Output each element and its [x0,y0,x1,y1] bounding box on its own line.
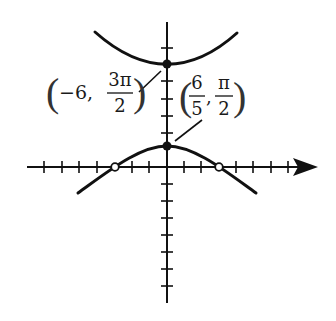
upper-point-label: ( −6, 3π 2 ) [46,69,146,116]
graph-figure: ( −6, 3π 2 ) ( 6 5 , π 2 ) [0,0,336,321]
label-x-coordinate: −6, [59,81,93,103]
lower-vertex-point [163,142,172,151]
close-paren: ) [133,70,146,115]
label-y-denominator: 2 [218,98,229,119]
label-y-numerator: 3π [108,69,131,90]
label-x-numerator: 6 [191,72,202,93]
close-paren: ) [233,74,246,119]
open-paren: ( [46,70,59,115]
left-intercept-open-point [111,163,119,171]
upper-vertex-point [163,60,172,69]
label-y-denominator: 2 [114,95,125,116]
lower-point-label: ( 6 5 , π 2 ) [179,72,246,119]
lower-label-leader-line [175,120,202,141]
label-x-denominator: 5 [191,98,202,119]
label-comma: , [206,86,212,107]
label-y-numerator: π [218,72,230,93]
x-axis [27,158,318,176]
right-intercept-open-point [215,163,223,171]
